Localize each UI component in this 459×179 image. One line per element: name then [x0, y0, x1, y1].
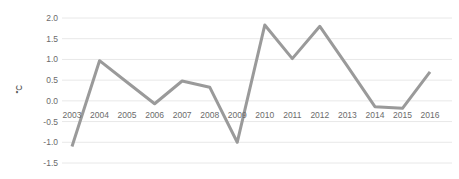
- y-axis-tick-label: -1.0: [30, 138, 58, 147]
- x-axis-tick-labels: 2003200420052006200720082009201020112012…: [62, 0, 452, 179]
- x-axis-tick-label: 2005: [118, 111, 137, 120]
- y-axis-tick-label: 0.0: [30, 97, 58, 106]
- y-axis-tick-label: 2.0: [30, 14, 58, 23]
- y-axis-tick-label: -1.5: [30, 159, 58, 168]
- y-axis-tick-label: -0.5: [30, 117, 58, 126]
- y-axis-tick-labels: 2.01.51.00.50.0-0.5-1.0-1.5: [30, 0, 58, 179]
- x-axis-tick-label: 2003: [63, 111, 82, 120]
- y-axis-tick-label: 1.5: [30, 34, 58, 43]
- x-axis-tick-label: 2015: [393, 111, 412, 120]
- x-axis-tick-label: 2007: [173, 111, 192, 120]
- temperature-anomaly-line-chart: ℃ 2.01.51.00.50.0-0.5-1.0-1.5 2003200420…: [0, 0, 459, 179]
- x-axis-tick-label: 2014: [365, 111, 384, 120]
- y-axis-title: ℃: [10, 77, 30, 101]
- x-axis-tick-label: 2013: [338, 111, 357, 120]
- plot-area: 2003200420052006200720082009201020112012…: [62, 0, 452, 179]
- y-axis-tick-label: 1.0: [30, 55, 58, 64]
- x-axis-tick-label: 2008: [200, 111, 219, 120]
- x-axis-tick-label: 2011: [283, 111, 301, 120]
- y-axis-tick-label: 0.5: [30, 76, 58, 85]
- x-axis-tick-label: 2016: [421, 111, 440, 120]
- x-axis-tick-label: 2012: [310, 111, 329, 120]
- x-axis-tick-label: 2010: [255, 111, 274, 120]
- x-axis-tick-label: 2004: [90, 111, 109, 120]
- x-axis-tick-label: 2009: [228, 111, 247, 120]
- x-axis-tick-label: 2006: [145, 111, 164, 120]
